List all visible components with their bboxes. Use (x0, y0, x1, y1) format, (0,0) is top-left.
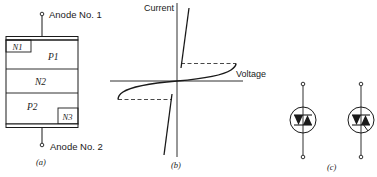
symbol2-bottom-terminal-icon (359, 155, 363, 159)
current-axis-label: Current (144, 3, 175, 13)
n1-label: N1 (12, 42, 23, 52)
bottom-metal-contact (6, 124, 78, 128)
caption-c: (c) (327, 162, 337, 172)
anode1-label: Anode No. 1 (49, 9, 102, 20)
panel-b-iv-characteristic: Current Voltage (b) (110, 3, 266, 170)
symbol1-top-terminal-icon (301, 82, 305, 86)
caption-a: (a) (36, 157, 46, 167)
figure-canvas: Anode No. 1 N1 P1 N2 P2 N3 Anode No. 2 (… (0, 0, 377, 177)
anode2-label: Anode No. 2 (50, 141, 103, 152)
voltage-axis-label: Voltage (236, 69, 266, 79)
symbol1-bottom-terminal-icon (301, 155, 305, 159)
p2-label: P2 (26, 102, 38, 112)
triac-symbol-2 (348, 82, 374, 159)
forward-on-state-line (181, 8, 189, 68)
n2-label: N2 (34, 77, 46, 87)
symbol2-top-terminal-icon (359, 82, 363, 86)
top-metal-contact (6, 37, 78, 41)
forward-blocking-curve (177, 64, 236, 82)
anode2-terminal-icon (40, 143, 44, 147)
n3-label: N3 (62, 112, 73, 122)
reverse-on-state-line (164, 94, 172, 155)
triac-symbol-1 (290, 82, 316, 159)
panel-c-symbols: (c) (290, 82, 374, 172)
panel-a-structure: Anode No. 1 N1 P1 N2 P2 N3 Anode No. 2 (… (6, 9, 103, 167)
p1-label: P1 (47, 52, 59, 62)
caption-b: (b) (171, 160, 181, 170)
reverse-blocking-curve (118, 81, 177, 100)
anode1-terminal-icon (40, 12, 44, 16)
